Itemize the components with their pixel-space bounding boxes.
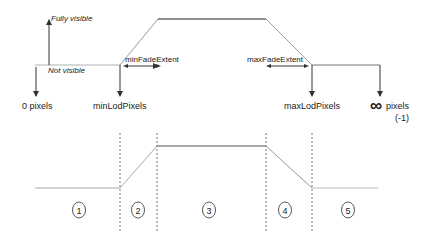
region-3: 3 <box>203 202 216 218</box>
bottom-fall <box>266 146 312 188</box>
min-fade-extent-label: minFadeExtent <box>125 55 180 64</box>
min-lod-pixels-label: minLodPixels <box>93 101 147 111</box>
zero-pixels-label: 0 pixels <box>22 101 53 111</box>
top-graph: Fully visible Not visible minFadeExtent … <box>22 14 410 123</box>
region-2: 2 <box>132 202 145 218</box>
region-5: 5 <box>342 202 355 218</box>
max-fade-right-arrowhead-icon <box>304 64 309 68</box>
max-fade-left-arrowhead-icon <box>266 64 271 68</box>
infinity-icon: ∞ <box>370 96 382 115</box>
not-visible-label: Not visible <box>48 66 85 75</box>
min-fade-left-arrowhead-icon <box>123 64 128 68</box>
infinity-sub-label: (-1) <box>395 113 409 123</box>
fully-visible-label: Fully visible <box>51 14 93 23</box>
region-1-label: 1 <box>76 206 81 216</box>
infinity-pixels-label: pixels <box>386 101 410 111</box>
max-lod-pixels-label: maxLodPixels <box>284 101 341 111</box>
bottom-rise <box>120 146 157 188</box>
region-1: 1 <box>73 202 86 218</box>
region-4: 4 <box>279 202 292 218</box>
min-fade-right-arrowhead-icon <box>156 64 161 68</box>
region-3-label: 3 <box>206 206 211 216</box>
region-4-label: 4 <box>282 206 287 216</box>
bottom-graph: 1 2 3 4 5 <box>35 133 378 233</box>
region-5-label: 5 <box>345 206 350 216</box>
lod-fade-diagram: Fully visible Not visible minFadeExtent … <box>0 0 429 243</box>
max-fade-extent-label: maxFadeExtent <box>247 55 304 64</box>
region-2-label: 2 <box>135 206 140 216</box>
